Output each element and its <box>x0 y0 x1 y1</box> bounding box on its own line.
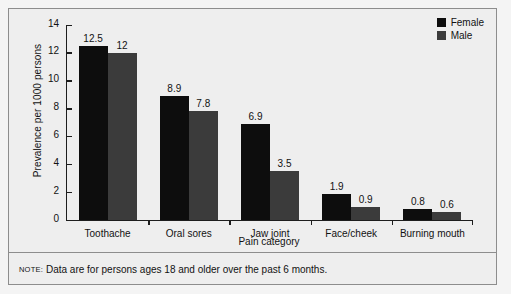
y-tick-label: 2 <box>53 185 59 196</box>
bar-female: 8.9 <box>160 96 189 220</box>
y-axis-title: Prevalence per 1000 persons <box>32 21 43 201</box>
y-tick-label: 0 <box>53 213 59 224</box>
bar-male: 7.8 <box>189 111 218 220</box>
x-axis-tick <box>148 220 150 225</box>
bar-pair: 6.93.5 <box>241 25 299 220</box>
bar-value-label: 0.8 <box>411 196 425 207</box>
legend-item: Male <box>437 30 484 41</box>
figure-frame: Prevalence per 1000 persons 02468101214 … <box>8 8 497 285</box>
bar-male: 0.9 <box>351 207 380 220</box>
bar-rect <box>322 194 351 220</box>
note-row: NOTE: Data are for persons ages 18 and o… <box>9 253 496 285</box>
x-axis-tick <box>392 220 394 225</box>
bar-rect <box>189 111 218 220</box>
bar-group: 0.80.6Burning mouth <box>392 25 473 220</box>
bar-female: 6.9 <box>241 124 270 220</box>
note-text: Data are for persons ages 18 and older o… <box>46 264 327 275</box>
plot-region: Prevalence per 1000 persons 02468101214 … <box>9 9 496 252</box>
legend-label: Female <box>451 17 484 28</box>
bar-group: 6.93.5Jaw joint <box>229 25 310 220</box>
bar-rect <box>351 207 380 220</box>
bar-rect <box>403 209 432 220</box>
bar-groups: 12.512Toothache8.97.8Oral sores6.93.5Jaw… <box>67 25 473 220</box>
bar-female: 12.5 <box>79 46 108 220</box>
y-tick-label: 14 <box>48 18 59 29</box>
x-axis-tick <box>311 220 313 225</box>
x-axis-tick <box>229 220 231 225</box>
chart-legend: FemaleMale <box>437 17 484 41</box>
y-tick-label: 6 <box>53 129 59 140</box>
chart-screenshot: Prevalence per 1000 persons 02468101214 … <box>0 0 511 294</box>
y-tick-label: 4 <box>53 157 59 168</box>
bar-value-label: 12 <box>117 40 128 51</box>
legend-label: Male <box>451 30 473 41</box>
note-prefix: NOTE: <box>19 265 43 274</box>
x-axis-tick <box>472 220 474 225</box>
bar-group: 1.90.9Face/cheek <box>311 25 392 220</box>
bar-rect <box>79 46 108 220</box>
y-tick-label: 12 <box>48 45 59 56</box>
bar-value-label: 12.5 <box>83 33 102 44</box>
bar-rect <box>108 53 137 220</box>
x-axis-title: Pain category <box>66 236 472 247</box>
bar-female: 1.9 <box>322 194 351 220</box>
bar-male: 3.5 <box>270 171 299 220</box>
legend-swatch <box>437 18 446 27</box>
bar-pair: 8.97.8 <box>160 25 218 220</box>
bar-value-label: 1.9 <box>330 181 344 192</box>
bar-pair: 0.80.6 <box>403 25 461 220</box>
bar-rect <box>270 171 299 220</box>
bar-rect <box>160 96 189 220</box>
bar-value-label: 0.6 <box>440 199 454 210</box>
bar-value-label: 3.5 <box>278 158 292 169</box>
bar-group: 8.97.8Oral sores <box>148 25 229 220</box>
bar-value-label: 0.9 <box>359 194 373 205</box>
bar-rect <box>432 212 461 220</box>
bar-rect <box>241 124 270 220</box>
legend-item: Female <box>437 17 484 28</box>
bar-male: 0.6 <box>432 212 461 220</box>
plot-area: 02468101214 12.512Toothache8.97.8Oral so… <box>66 25 473 221</box>
y-tick-label: 10 <box>48 73 59 84</box>
bar-pair: 1.90.9 <box>322 25 380 220</box>
bar-value-label: 8.9 <box>167 83 181 94</box>
y-tick-label: 8 <box>53 101 59 112</box>
bar-male: 12 <box>108 53 137 220</box>
bar-pair: 12.512 <box>79 25 137 220</box>
bar-value-label: 7.8 <box>196 98 210 109</box>
bar-value-label: 6.9 <box>249 111 263 122</box>
bar-group: 12.512Toothache <box>67 25 148 220</box>
legend-swatch <box>437 31 446 40</box>
bar-female: 0.8 <box>403 209 432 220</box>
